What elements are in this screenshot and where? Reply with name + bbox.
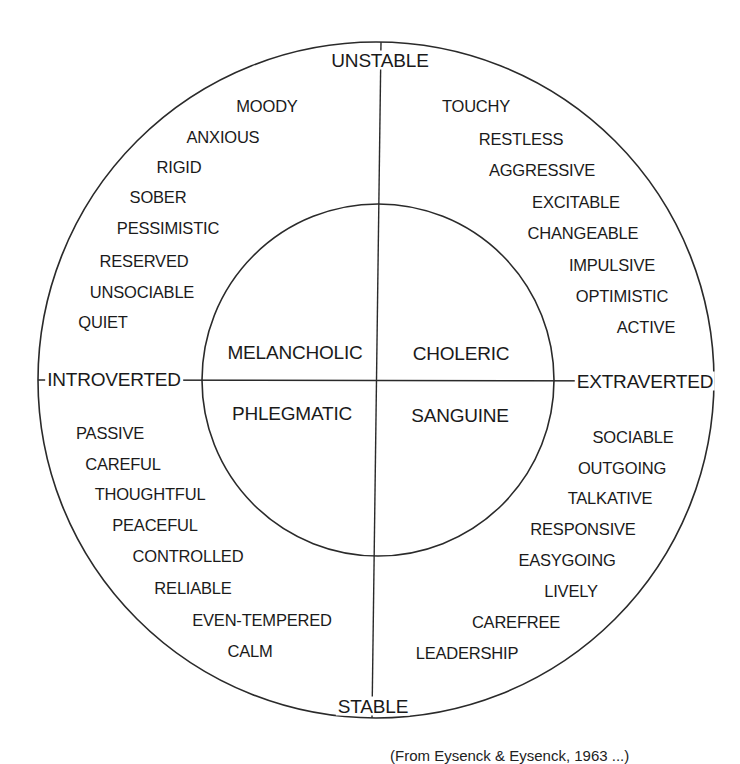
trait-responsive: RESPONSIVE [530, 521, 635, 538]
temperament-diagram: UNSTABLE STABLE INTROVERTED EXTRAVERTED … [0, 0, 740, 764]
trait-lively: LIVELY [544, 583, 598, 600]
temperament-sanguine: SANGUINE [411, 406, 509, 425]
trait-changeable: CHANGEABLE [528, 225, 639, 242]
trait-rigid: RIGID [157, 159, 202, 176]
source-caption: (From Eysenck & Eysenck, 1963 ...) [390, 747, 629, 764]
trait-thoughtful: THOUGHTFUL [95, 486, 206, 503]
trait-touchy: TOUCHY [442, 98, 510, 115]
trait-pessimistic: PESSIMISTIC [117, 220, 219, 237]
trait-anxious: ANXIOUS [187, 129, 260, 146]
trait-easygoing: EASYGOING [518, 552, 615, 569]
axis-label-unstable: UNSTABLE [329, 51, 430, 70]
temperament-melancholic: MELANCHOLIC [227, 343, 362, 362]
trait-optimistic: OPTIMISTIC [576, 288, 668, 305]
trait-reliable: RELIABLE [154, 580, 231, 597]
trait-sober: SOBER [130, 189, 187, 206]
trait-even-tempered: EVEN-TEMPERED [192, 612, 332, 629]
trait-carefree: CAREFREE [472, 614, 560, 631]
trait-sociable: SOCIABLE [593, 429, 674, 446]
trait-passive: PASSIVE [76, 425, 144, 442]
trait-quiet: QUIET [78, 314, 127, 331]
temperament-choleric: CHOLERIC [413, 344, 510, 363]
trait-careful: CAREFUL [85, 456, 161, 473]
trait-impulsive: IMPULSIVE [569, 257, 655, 274]
axis-label-introverted: INTROVERTED [45, 370, 183, 389]
trait-excitable: EXCITABLE [532, 194, 620, 211]
trait-active: ACTIVE [617, 319, 675, 336]
trait-moody: MOODY [236, 98, 297, 115]
trait-controlled: CONTROLLED [133, 548, 244, 565]
axis-label-stable: STABLE [336, 697, 410, 716]
trait-calm: CALM [227, 643, 272, 660]
trait-talkative: TALKATIVE [568, 490, 653, 507]
trait-aggressive: AGGRESSIVE [489, 162, 595, 179]
trait-peaceful: PEACEFUL [112, 517, 198, 534]
trait-leadership: LEADERSHIP [416, 645, 519, 662]
trait-outgoing: OUTGOING [578, 460, 666, 477]
trait-unsociable: UNSOCIABLE [90, 284, 194, 301]
axis-label-extraverted: EXTRAVERTED [575, 372, 715, 391]
temperament-phlegmatic: PHLEGMATIC [232, 404, 352, 423]
trait-restless: RESTLESS [479, 131, 564, 148]
trait-reserved: RESERVED [100, 253, 189, 270]
